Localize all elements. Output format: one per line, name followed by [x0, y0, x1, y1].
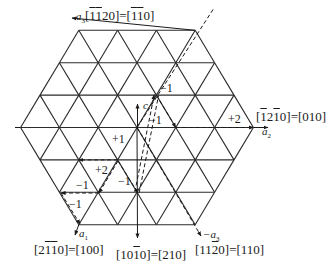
hexagonal-lattice-diagram: [0, 0, 331, 267]
c-axis-label: c: [143, 100, 148, 111]
step-label: −1: [69, 198, 82, 210]
a1-axis-label: a1: [79, 228, 88, 242]
step-label: +2: [228, 113, 241, 125]
step-label: −1: [160, 82, 173, 94]
step-label: +1: [112, 133, 125, 145]
step-label: −1: [76, 179, 89, 191]
neg-a3-direction-label: [1120]=[110]: [195, 243, 264, 256]
step-label: −1: [118, 175, 131, 187]
a3-axis-label: a3[1120]=[110]: [76, 9, 154, 25]
a3-symbol: a3: [76, 10, 85, 22]
a2-direction-label: [1210]=[010]: [256, 110, 326, 123]
a2-axis-label: a2: [262, 126, 271, 140]
step-label: −1: [149, 114, 162, 126]
down-direction-label: [1010]=[210]: [116, 248, 186, 261]
a1-direction-label: [2110]=[100]: [34, 243, 104, 256]
step-label: +2: [95, 164, 108, 176]
